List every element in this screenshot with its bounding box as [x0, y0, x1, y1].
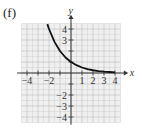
x-axis-label: x — [129, 67, 135, 78]
y-tick-label: −2 — [56, 90, 67, 101]
x-tick-label: 2 — [91, 75, 96, 86]
y-tick-label: 3 — [62, 35, 67, 46]
x-axis-arrow-icon — [124, 71, 128, 76]
x-tick-label: 1 — [80, 75, 85, 86]
y-tick-label: −4 — [56, 112, 67, 123]
y-tick-label: −3 — [56, 101, 67, 112]
x-tick-label: 3 — [102, 75, 107, 86]
x-tick-label: 4 — [113, 75, 118, 86]
x-tick-label: −2 — [44, 75, 55, 86]
y-tick-label: 4 — [62, 24, 67, 35]
y-axis-label: y — [68, 5, 74, 16]
function-graph: −4−21234−4−3−234xy — [0, 0, 142, 129]
x-tick-label: −4 — [22, 75, 33, 86]
